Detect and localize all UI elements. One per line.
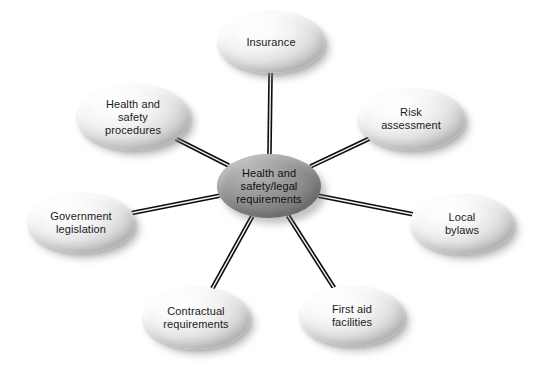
node-health-and-safety-procedures[interactable]: Health and safety procedures bbox=[76, 84, 190, 150]
node-insurance[interactable]: Insurance bbox=[217, 11, 325, 73]
node-layer: InsuranceRisk assessmentLocal bylawsFirs… bbox=[0, 0, 544, 370]
node-contractual-requirements[interactable]: Contractual requirements bbox=[142, 287, 250, 349]
diagram-canvas: InsuranceRisk assessmentLocal bylawsFirs… bbox=[0, 0, 544, 370]
node-first-aid-facilities[interactable]: First aid facilities bbox=[299, 286, 405, 346]
node-risk-assessment[interactable]: Risk assessment bbox=[357, 88, 465, 150]
node-label-center: Health and safety/legal requirements bbox=[230, 167, 307, 206]
node-government-legislation[interactable]: Government legislation bbox=[27, 193, 135, 253]
node-label-local-bylaws: Local bylaws bbox=[439, 211, 485, 237]
node-label-contractual-requirements: Contractual requirements bbox=[157, 305, 234, 331]
node-local-bylaws[interactable]: Local bylaws bbox=[410, 194, 514, 254]
node-label-insurance: Insurance bbox=[240, 36, 301, 49]
center-node-center[interactable]: Health and safety/legal requirements bbox=[217, 154, 321, 218]
node-label-health-and-safety-procedures: Health and safety procedures bbox=[99, 98, 167, 137]
node-label-risk-assessment: Risk assessment bbox=[375, 106, 447, 132]
node-label-first-aid-facilities: First aid facilities bbox=[326, 303, 378, 329]
node-label-government-legislation: Government legislation bbox=[44, 210, 118, 236]
